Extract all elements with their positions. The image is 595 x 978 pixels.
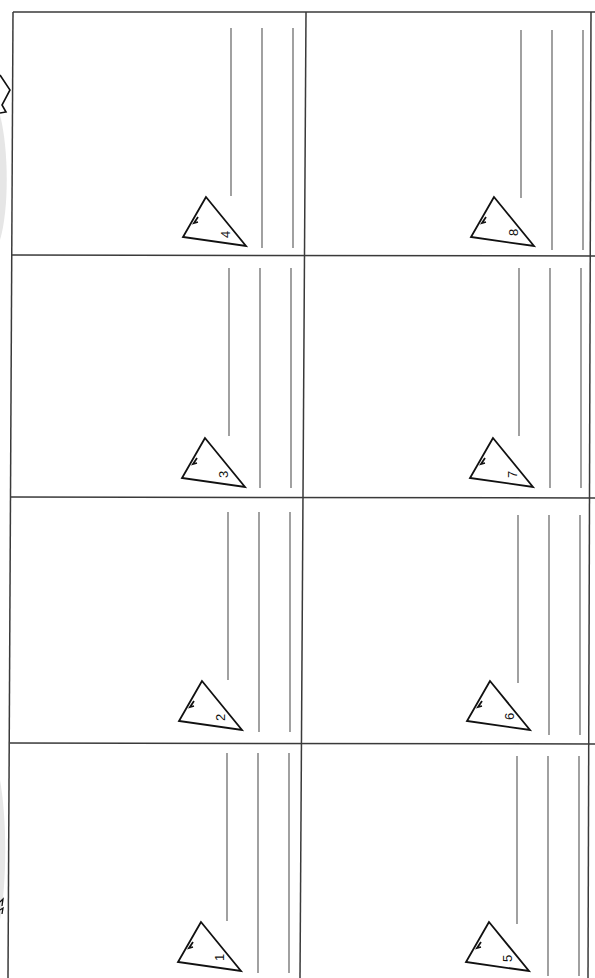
cell-1: 1 [178, 753, 289, 973]
cell-4: 4 [183, 28, 293, 248]
cell-number: 2 [213, 714, 228, 721]
cell-2: 2 [179, 512, 290, 732]
triangle-icon [183, 197, 246, 246]
triangle-icon [470, 438, 533, 487]
worksheet-page: 4 3 2 1 8 7 [0, 0, 595, 978]
cell-number: 7 [505, 471, 520, 478]
triangle-icon [182, 438, 245, 487]
cell-5: 5 [466, 756, 579, 976]
cell-3: 3 [182, 268, 291, 488]
worksheet-cells: 4 3 2 1 8 7 [0, 0, 595, 978]
triangle-icon [466, 922, 529, 971]
cell-6: 6 [467, 515, 580, 735]
triangle-icon [178, 922, 241, 971]
triangle-icon [467, 681, 530, 730]
cell-7: 7 [470, 268, 581, 488]
cell-number: 1 [212, 954, 227, 961]
cell-number: 6 [502, 713, 517, 720]
cell-8: 8 [471, 30, 583, 250]
cell-number: 5 [500, 955, 515, 962]
triangle-icon [471, 197, 534, 246]
triangle-icon [179, 681, 242, 730]
cell-number: 4 [218, 231, 233, 238]
cell-number: 8 [506, 229, 521, 236]
cell-number: 3 [216, 471, 231, 478]
